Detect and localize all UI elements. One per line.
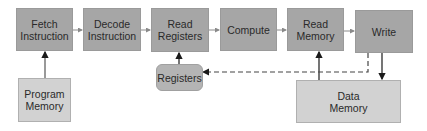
- stage-write: Write: [355, 10, 413, 53]
- stage-decode-instruction: Decode Instruction: [83, 8, 141, 51]
- stage-label: Write: [372, 26, 396, 38]
- stage-label: Fetch Instruction: [20, 18, 68, 42]
- storage-data-memory: Data Memory: [296, 80, 401, 123]
- dashed-arrow-write-to-registers: [203, 53, 368, 72]
- stage-fetch-instruction: Fetch Instruction: [16, 8, 73, 51]
- storage-label: Data Memory: [330, 90, 368, 114]
- storage-registers: Registers: [156, 64, 203, 91]
- storage-label: Program Memory: [24, 88, 64, 112]
- stage-label: Compute: [227, 24, 270, 36]
- stage-label: Decode Instruction: [88, 18, 136, 42]
- stage-read-registers: Read Registers: [151, 8, 209, 52]
- storage-program-memory: Program Memory: [18, 78, 71, 122]
- stage-label: Read Registers: [158, 18, 202, 42]
- stage-compute: Compute: [220, 8, 277, 51]
- stage-read-memory: Read Memory: [287, 8, 344, 51]
- storage-label: Registers: [157, 72, 201, 84]
- stage-label: Read Memory: [297, 18, 335, 42]
